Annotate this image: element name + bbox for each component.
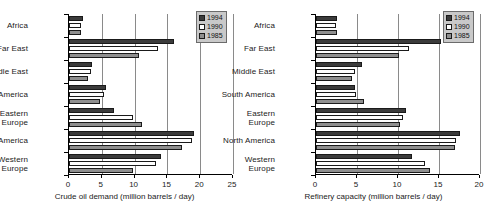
y-axis-tick xyxy=(64,14,68,15)
y-axis-category-label: Africa xyxy=(203,21,275,30)
bar-group xyxy=(316,106,479,129)
bar xyxy=(69,16,83,21)
bar xyxy=(69,39,174,44)
bar xyxy=(316,62,362,67)
bar xyxy=(69,115,133,120)
x-axis-tick-label: 5 xyxy=(89,180,113,189)
bar xyxy=(316,76,352,81)
bar xyxy=(69,76,88,81)
bar xyxy=(69,108,114,113)
legend-refinery-capacity: 1994 1990 1985 xyxy=(443,11,474,43)
y-axis-category-label: Middle East xyxy=(203,67,275,76)
y-axis-category-label: South America xyxy=(0,90,28,99)
y-axis-category-label: Africa xyxy=(0,21,28,30)
x-axis-tick xyxy=(438,175,439,178)
bar xyxy=(316,161,425,166)
y-axis-tick xyxy=(311,106,315,107)
legend-label-1994: 1994 xyxy=(454,14,470,22)
bar-group xyxy=(316,129,479,152)
legend-item-1985: 1985 xyxy=(446,32,470,40)
legend-item-1994: 1994 xyxy=(446,14,470,22)
legend-label-1985: 1985 xyxy=(454,32,470,40)
y-axis-tick xyxy=(64,60,68,61)
y-axis-tick xyxy=(64,83,68,84)
bar xyxy=(69,23,81,28)
bar-group xyxy=(316,152,479,175)
y-axis-category-label: Western Europe xyxy=(203,155,275,173)
bar xyxy=(316,115,403,120)
y-axis-tick xyxy=(311,37,315,38)
y-axis-tick xyxy=(311,152,315,153)
bar xyxy=(69,30,81,35)
x-axis-title-refinery-capacity: Refinery capacity (million barrels / day… xyxy=(249,192,498,202)
x-axis-tick-label: 10 xyxy=(385,180,409,189)
bar xyxy=(69,154,161,159)
y-axis-category-label: Western Europe xyxy=(0,155,28,173)
y-axis-category-label: Far East xyxy=(0,44,28,53)
x-axis-tick-label: 10 xyxy=(122,180,146,189)
bar xyxy=(316,122,400,127)
y-axis-category-label: South America xyxy=(203,90,275,99)
x-axis-title-crude-oil-demand: Crude oil demand (million barrels / day) xyxy=(0,192,249,202)
bar xyxy=(316,108,406,113)
bar xyxy=(316,138,456,143)
bar xyxy=(316,99,364,104)
x-axis-tick xyxy=(232,175,233,178)
y-axis-tick xyxy=(311,14,315,15)
x-axis-tick-label: 25 xyxy=(220,180,244,189)
x-axis-tick xyxy=(101,175,102,178)
bar xyxy=(69,62,92,67)
y-axis-tick xyxy=(64,106,68,107)
legend-item-1985: 1985 xyxy=(199,32,223,40)
y-axis-tick xyxy=(64,37,68,38)
chart-figure: Crude oil demand (million barrels / day)… xyxy=(0,0,498,215)
y-axis-tick xyxy=(64,152,68,153)
bar xyxy=(316,69,355,74)
bar xyxy=(69,46,158,51)
legend-label-1990: 1990 xyxy=(454,23,470,31)
chart-panel-crude-oil-demand: Crude oil demand (million barrels / day)… xyxy=(0,0,249,215)
y-axis-category-label: North America xyxy=(203,136,275,145)
x-axis-tick-label: 15 xyxy=(426,180,450,189)
bar xyxy=(69,161,156,166)
y-axis-category-label: Far East xyxy=(203,44,275,53)
legend-label-1985: 1985 xyxy=(207,32,223,40)
bar xyxy=(316,145,455,150)
x-axis-tick xyxy=(199,175,200,178)
bar xyxy=(69,92,104,97)
bar xyxy=(316,168,430,173)
legend-item-1990: 1990 xyxy=(446,23,470,31)
x-axis-tick xyxy=(397,175,398,178)
bar xyxy=(69,131,194,136)
y-axis-category-label: Eastern Europe xyxy=(203,109,275,127)
y-axis-tick xyxy=(64,175,68,176)
bar xyxy=(316,30,337,35)
x-axis-tick-label: 20 xyxy=(187,180,211,189)
y-axis-category-label: Middle East xyxy=(0,67,28,76)
bar xyxy=(316,23,336,28)
y-axis-tick xyxy=(311,175,315,176)
bar-group xyxy=(316,83,479,106)
bar xyxy=(69,168,133,173)
x-axis-tick-label: 0 xyxy=(303,180,327,189)
bar xyxy=(316,39,441,44)
bar xyxy=(316,85,355,90)
bar-group xyxy=(316,60,479,83)
bar xyxy=(69,122,142,127)
x-axis-tick xyxy=(134,175,135,178)
x-axis-tick-label: 5 xyxy=(344,180,368,189)
x-axis-tick xyxy=(166,175,167,178)
x-axis-tick-label: 15 xyxy=(154,180,178,189)
bar xyxy=(316,92,356,97)
bar xyxy=(316,131,460,136)
bar xyxy=(316,46,409,51)
y-axis-tick xyxy=(64,129,68,130)
bar xyxy=(316,16,337,21)
legend-swatch-1985-icon xyxy=(446,33,452,39)
bar xyxy=(69,99,100,104)
legend-swatch-1985-icon xyxy=(199,33,205,39)
y-axis-tick xyxy=(311,129,315,130)
bar xyxy=(316,154,412,159)
bar xyxy=(316,53,399,58)
x-axis-tick-label: 20 xyxy=(467,180,491,189)
